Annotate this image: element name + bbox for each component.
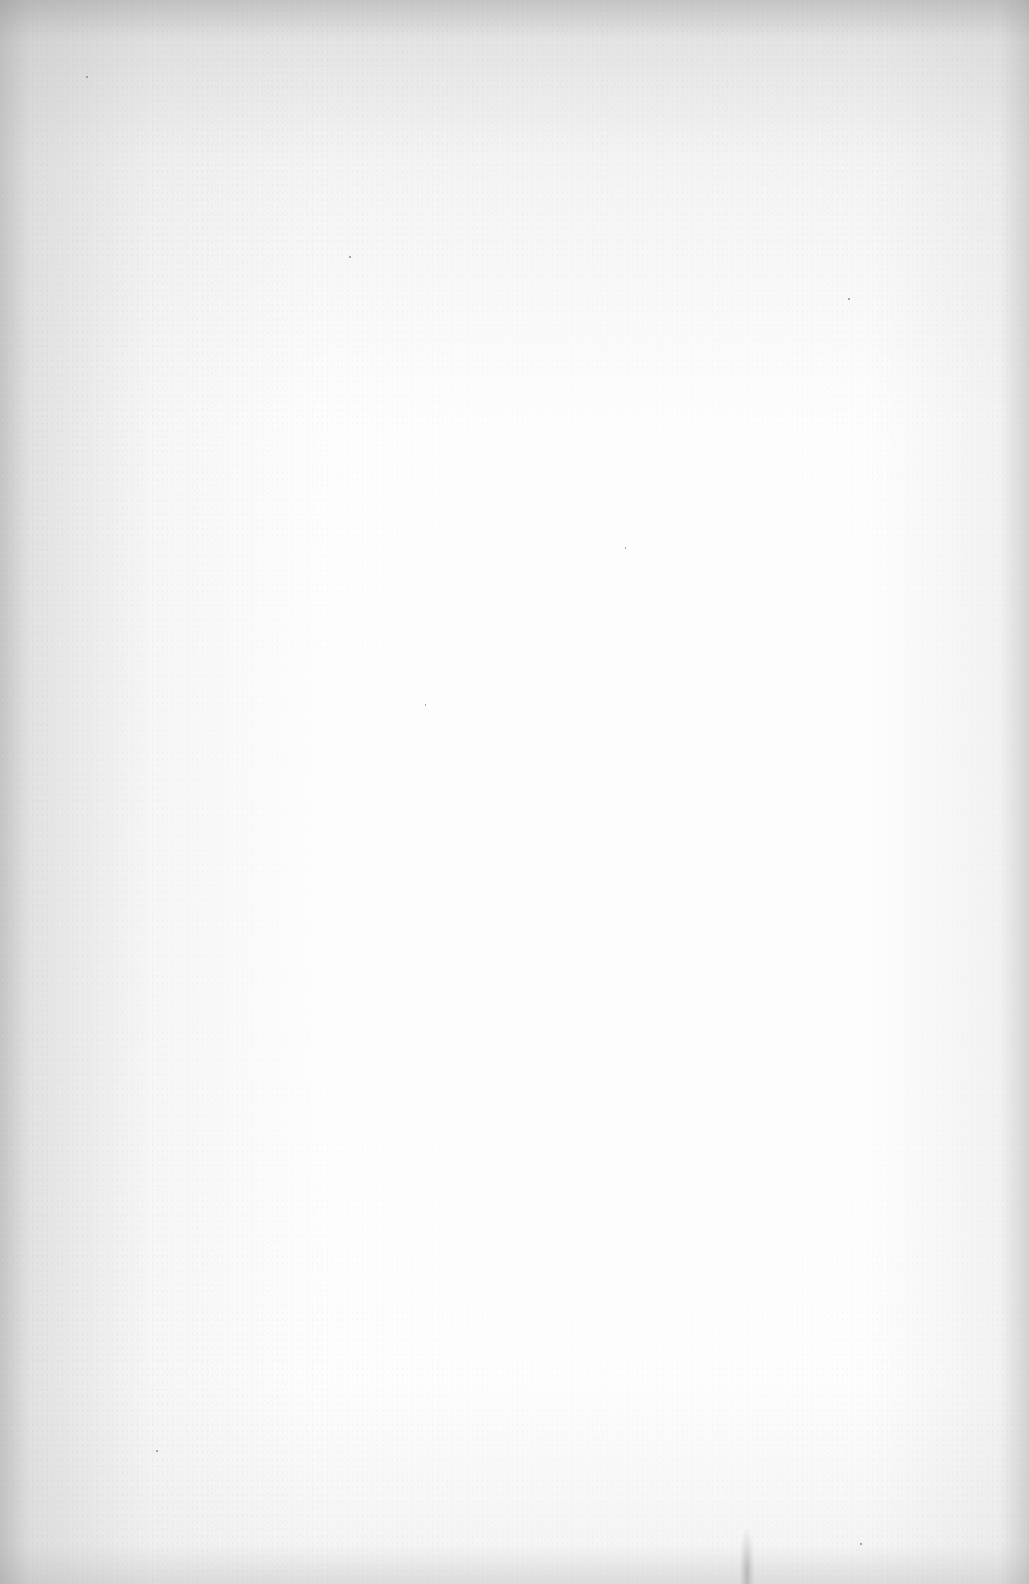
- blank-scanned-page: [0, 0, 1029, 1584]
- dust-speck: [156, 1450, 158, 1452]
- edge-shadow: [0, 0, 1029, 1584]
- scan-smudge: [740, 1530, 754, 1584]
- dust-speck: [860, 1543, 862, 1545]
- dust-speck: [349, 256, 351, 258]
- dust-speck: [86, 76, 88, 78]
- paper-center-highlight: [0, 0, 1029, 1584]
- paper-grain-texture: [0, 0, 1029, 1584]
- dust-speck: [425, 704, 426, 706]
- dust-speck: [625, 547, 626, 549]
- dust-speck: [848, 298, 850, 300]
